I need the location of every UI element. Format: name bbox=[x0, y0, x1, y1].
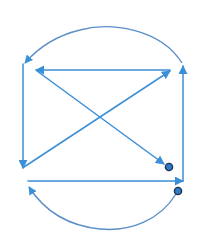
bottom-arc-arrow bbox=[29, 187, 176, 229]
diagram-canvas bbox=[0, 0, 205, 245]
node-dot-upper bbox=[165, 163, 172, 170]
node-dot-lower bbox=[174, 187, 181, 194]
top-arc-arrow bbox=[25, 27, 182, 63]
diagram-svg bbox=[0, 0, 205, 245]
